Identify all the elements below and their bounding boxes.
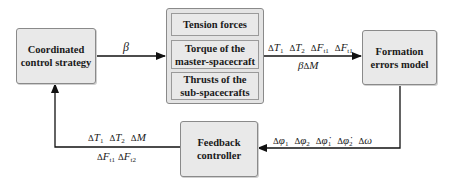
block-label-line: Formation bbox=[371, 45, 429, 58]
signal-term: Δφ̇1 bbox=[316, 134, 331, 146]
variable-symbol: F bbox=[103, 150, 110, 162]
coordinated-control-strategy-block: Coordinated control strategy bbox=[16, 28, 96, 84]
signal-term: ΔFt1 bbox=[335, 41, 353, 53]
control-inputs-group: Tension forces Torque of the master-spac… bbox=[166, 8, 264, 104]
subscript: 1 bbox=[328, 140, 332, 148]
subscript: t1 bbox=[347, 47, 352, 55]
block-label-line: Feedback bbox=[197, 136, 241, 149]
variable-symbol: F bbox=[124, 150, 131, 162]
signal-term: ΔM bbox=[303, 59, 318, 71]
signal-term: ΔM bbox=[131, 131, 146, 143]
block-label-line: controller bbox=[197, 149, 241, 162]
subscript: 2 bbox=[121, 137, 125, 145]
signal-bottom-left-row1: ΔT1ΔT2ΔM bbox=[88, 131, 152, 145]
subscript: 2 bbox=[349, 140, 353, 148]
signal-term: ΔT1 bbox=[268, 41, 283, 53]
variable-symbol: ω bbox=[364, 134, 372, 146]
subscript: 1 bbox=[280, 47, 284, 55]
signal-term: ΔFt1 bbox=[311, 41, 329, 53]
signal-beta-label: β bbox=[123, 40, 129, 55]
subscript: 1 bbox=[100, 137, 104, 145]
torque-master-spacecraft-block: Torque of the master-spacecraft bbox=[171, 40, 259, 69]
subscript: t1 bbox=[110, 156, 115, 164]
subscript: 1 bbox=[285, 140, 289, 148]
signal-bottom-right: Δφ1Δφ2Δφ̇1Δφ̇2Δω bbox=[273, 134, 378, 148]
subscript: t2 bbox=[131, 156, 136, 164]
block-label-line: Tension forces bbox=[183, 18, 247, 31]
subscript: 2 bbox=[306, 140, 310, 148]
subscript: t1 bbox=[323, 47, 328, 55]
signal-bottom-left-row2: ΔFt1ΔFt2 bbox=[97, 150, 139, 164]
block-label-line: master-spacecraft bbox=[175, 55, 255, 68]
signal-term: ΔFt2 bbox=[118, 150, 136, 162]
block-label-line: Thrusts of the bbox=[180, 73, 249, 86]
signal-term: Δφ̇2 bbox=[337, 134, 352, 146]
variable-symbol: M bbox=[309, 59, 318, 71]
subscript: 2 bbox=[301, 47, 305, 55]
signal-term: ΔT1 bbox=[88, 131, 103, 143]
signal-term: ΔT2 bbox=[289, 41, 304, 53]
feedback-controller-block: Feedback controller bbox=[180, 121, 258, 177]
signal-term: ΔT2 bbox=[109, 131, 124, 143]
signal-term: Δω bbox=[359, 134, 373, 146]
signal-term: ΔFt1 bbox=[97, 150, 115, 162]
thrusts-sub-spacecrafts-block: Thrusts of the sub-spacecrafts bbox=[171, 72, 259, 100]
block-label-line: control strategy bbox=[21, 56, 92, 69]
formation-errors-model-block: Formation errors model bbox=[362, 30, 437, 85]
block-label-line: Torque of the bbox=[175, 42, 255, 55]
signal-top-right-row1: ΔT1ΔT2ΔFt1ΔFt1 bbox=[268, 41, 359, 55]
tension-forces-block: Tension forces bbox=[171, 13, 259, 36]
variable-symbol: M bbox=[137, 131, 146, 143]
block-label-line: Coordinated bbox=[21, 43, 92, 56]
signal-term: Δφ2 bbox=[294, 134, 309, 146]
block-label-line: errors model bbox=[371, 58, 429, 71]
signal-top-right-row2: βΔM bbox=[298, 59, 318, 71]
signal-term: Δφ1 bbox=[273, 134, 288, 146]
block-label-line: sub-spacecrafts bbox=[180, 86, 249, 99]
